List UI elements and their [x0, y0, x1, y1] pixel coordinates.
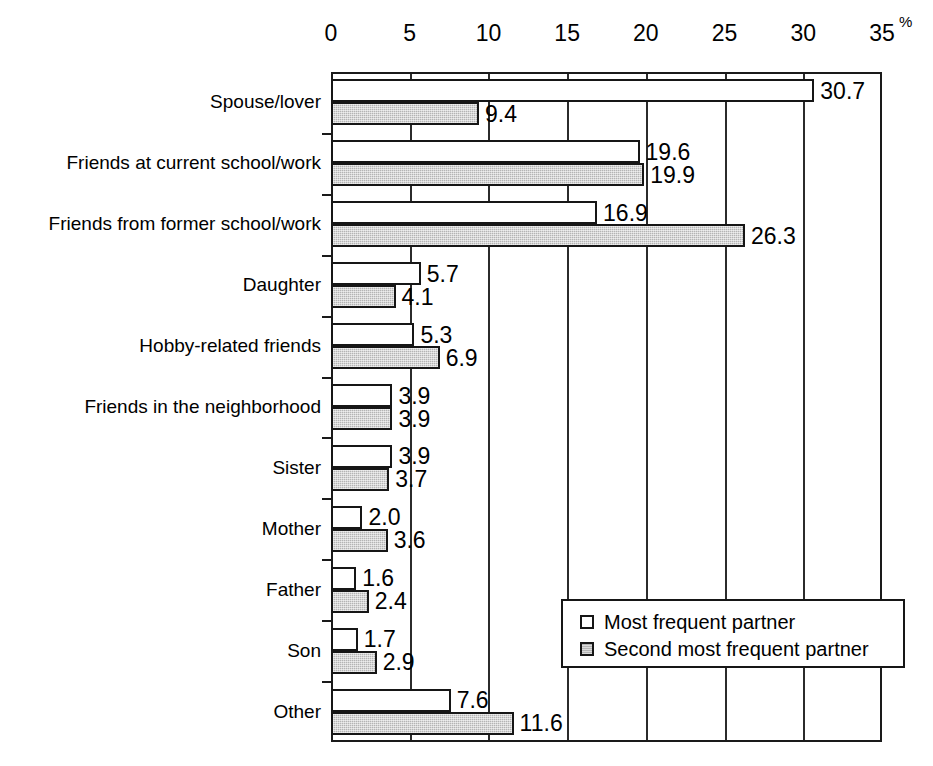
bar-value-label: 2.4: [375, 590, 407, 613]
bar-value-label: 3.7: [395, 468, 427, 491]
bar-value-label: 3.6: [394, 529, 426, 552]
y-axis-tick: [322, 133, 331, 135]
category-label-son: Son: [287, 640, 321, 662]
x-tick-label-25: 25: [712, 22, 738, 45]
x-tick-label-5: 5: [403, 22, 416, 45]
y-axis-tick: [322, 498, 331, 500]
x-axis-tick-labels: 05101520253035%: [0, 0, 933, 72]
bar-most-frequent: [331, 201, 597, 224]
bar-second-most-frequent: [331, 102, 479, 125]
legend-swatch-white-icon: [580, 615, 594, 629]
bar-value-label: 2.0: [368, 506, 400, 529]
bar-second-most-frequent: [331, 163, 644, 186]
bar-value-label: 4.1: [402, 285, 434, 308]
category-label-other: Other: [273, 701, 321, 723]
category-label-friends-at-current-school-work: Friends at current school/work: [67, 152, 322, 174]
y-axis-tick: [322, 316, 331, 318]
bar-value-label: 26.3: [751, 224, 796, 247]
bar-value-label: 19.9: [650, 163, 695, 186]
bar-value-label: 6.9: [446, 346, 478, 369]
legend-entry-most-frequent-partner: Most frequent partner: [580, 608, 903, 635]
category-label-sister: Sister: [272, 457, 321, 479]
x-tick-label-0: 0: [325, 22, 338, 45]
legend: Most frequent partner Second most freque…: [561, 599, 905, 668]
category-label-friends-from-former-school-work: Friends from former school/work: [49, 213, 321, 235]
x-tick-label-15: 15: [554, 22, 580, 45]
bar-most-frequent: [331, 689, 451, 712]
bar-value-label: 19.6: [646, 140, 691, 163]
y-axis-tick: [322, 681, 331, 683]
bar-most-frequent: [331, 628, 358, 651]
bar-second-most-frequent: [331, 712, 514, 735]
y-axis-tick: [322, 194, 331, 196]
bar-value-label: 2.9: [383, 651, 415, 674]
category-label-hobby-related-friends: Hobby-related friends: [139, 335, 321, 357]
bar-second-most-frequent: [331, 224, 745, 247]
bar-second-most-frequent: [331, 407, 392, 430]
legend-swatch-gray-icon: [580, 642, 594, 656]
bar-chart: 05101520253035% Spouse/loverFriends at c…: [0, 0, 933, 766]
bar-value-label: 5.3: [420, 323, 452, 346]
x-tick-label-35: 35: [869, 22, 895, 45]
category-label-friends-in-the-neighborhood: Friends in the neighborhood: [84, 396, 321, 418]
bar-second-most-frequent: [331, 529, 388, 552]
bar-most-frequent: [331, 323, 414, 346]
bar-value-label: 9.4: [485, 102, 517, 125]
percent-unit-label: %: [899, 14, 912, 29]
bar-most-frequent: [331, 384, 392, 407]
legend-label: Most frequent partner: [604, 612, 795, 632]
legend-label: Second most frequent partner: [604, 639, 869, 659]
bar-value-label: 1.7: [364, 628, 396, 651]
category-label-daughter: Daughter: [243, 274, 321, 296]
bar-value-label: 3.9: [398, 384, 430, 407]
bar-second-most-frequent: [331, 346, 440, 369]
bar-most-frequent: [331, 506, 362, 529]
bar-value-label: 3.9: [398, 445, 430, 468]
x-tick-label-10: 10: [476, 22, 502, 45]
bar-most-frequent: [331, 262, 421, 285]
bar-second-most-frequent: [331, 651, 377, 674]
bar-most-frequent: [331, 445, 392, 468]
bar-second-most-frequent: [331, 285, 396, 308]
bar-most-frequent: [331, 140, 640, 163]
bar-value-label: 16.9: [603, 201, 648, 224]
y-axis-tick: [322, 437, 331, 439]
legend-entry-second-most-frequent-partner: Second most frequent partner: [580, 635, 903, 662]
bar-second-most-frequent: [331, 468, 389, 491]
x-tick-label-30: 30: [790, 22, 816, 45]
bar-most-frequent: [331, 79, 814, 102]
bar-value-label: 7.6: [457, 689, 489, 712]
y-axis-tick: [322, 255, 331, 257]
bar-most-frequent: [331, 567, 356, 590]
category-label-father: Father: [266, 579, 321, 601]
category-label-mother: Mother: [262, 518, 321, 540]
bar-second-most-frequent: [331, 590, 369, 613]
bar-value-label: 3.9: [398, 407, 430, 430]
y-axis-tick: [322, 559, 331, 561]
bar-value-label: 1.6: [362, 567, 394, 590]
y-axis-tick: [322, 620, 331, 622]
bar-value-label: 11.6: [520, 712, 563, 735]
x-tick-label-20: 20: [633, 22, 659, 45]
bar-value-label: 30.7: [820, 79, 865, 102]
y-axis-tick: [322, 377, 331, 379]
bar-value-label: 5.7: [427, 262, 459, 285]
category-label-spouse-lover: Spouse/lover: [210, 91, 321, 113]
